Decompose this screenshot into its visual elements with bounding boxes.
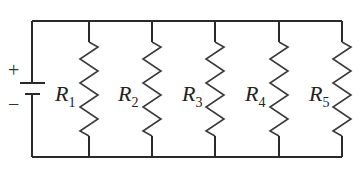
resistor-r2: R2 bbox=[117, 21, 161, 157]
battery-negative-label: − bbox=[8, 93, 19, 115]
resistor-label-r3: R3 bbox=[181, 81, 202, 110]
resistor-zigzag-icon bbox=[143, 42, 161, 136]
resistor-zigzag-icon bbox=[270, 42, 288, 136]
resistor-zigzag-icon bbox=[80, 42, 98, 136]
resistor-label-r4: R4 bbox=[244, 81, 265, 110]
battery-icon bbox=[20, 83, 45, 94]
resistor-label-r2: R2 bbox=[117, 81, 138, 110]
resistor-r5: R5 bbox=[308, 21, 351, 157]
resistor-r4: R4 bbox=[244, 21, 288, 157]
circuit-diagram: + − R1 R2 R3 R4 R5 bbox=[0, 0, 361, 172]
resistor-r3: R3 bbox=[181, 21, 224, 157]
resistor-zigzag-icon bbox=[333, 42, 351, 136]
resistor-label-r5: R5 bbox=[308, 81, 329, 110]
resistor-r1: R1 bbox=[54, 21, 98, 157]
resistor-zigzag-icon bbox=[206, 42, 224, 136]
battery-positive-label: + bbox=[8, 59, 19, 81]
resistor-label-r1: R1 bbox=[54, 81, 75, 110]
